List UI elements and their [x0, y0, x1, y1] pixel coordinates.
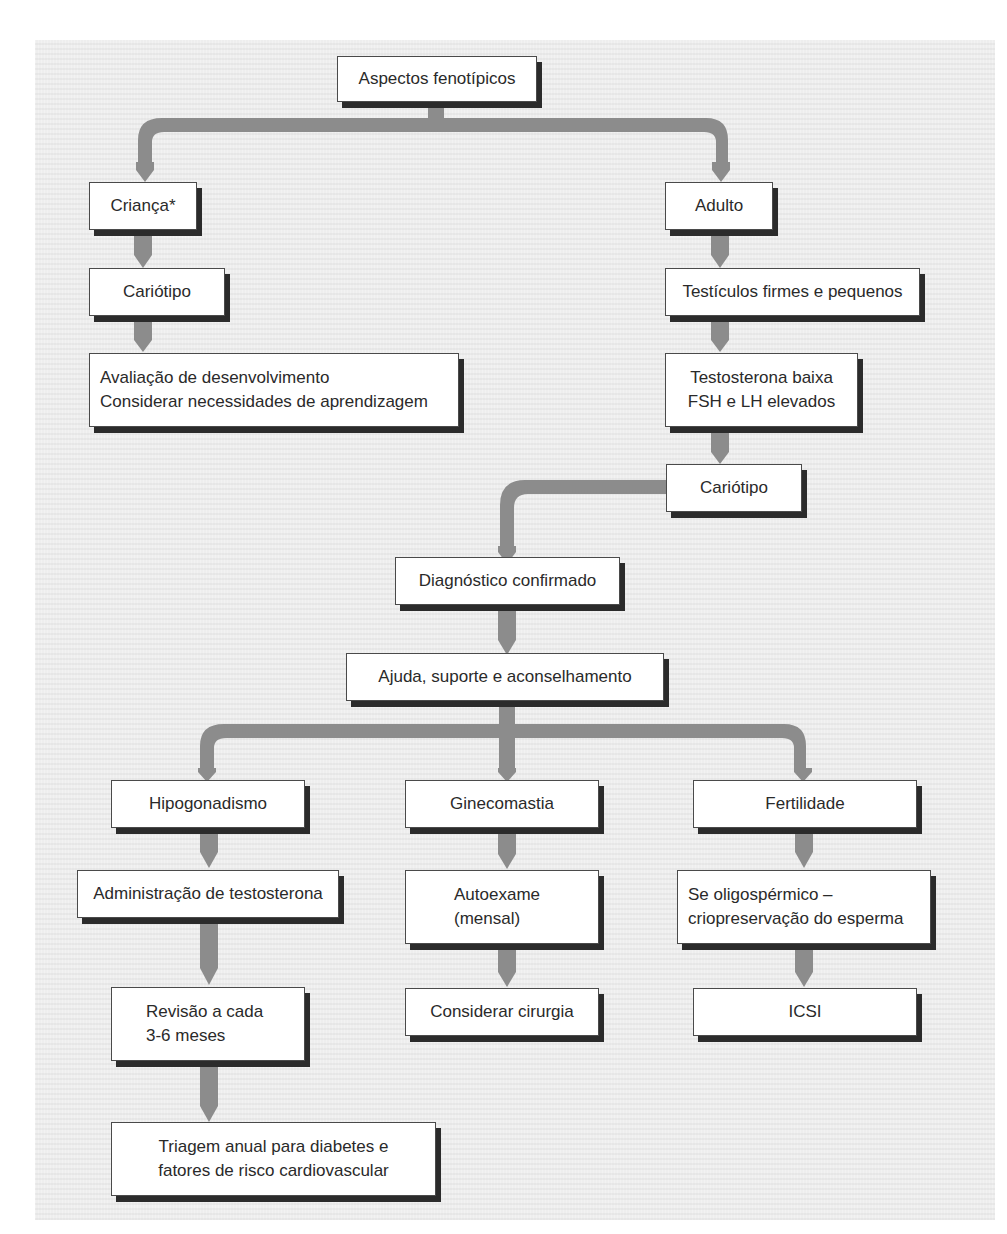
node-label-line-2: (mensal) — [454, 907, 520, 931]
node-label-line-2: FSH e LH elevados — [688, 390, 835, 414]
node-testosterone-administration: Administração de testosterona — [77, 870, 339, 918]
node-label-line-1: Triagem anual para diabetes e — [159, 1135, 389, 1159]
node-self-exam: Autoexame (mensal) — [405, 870, 599, 944]
node-label: Cariótipo — [123, 280, 191, 304]
arrow-karyotype-to-eval — [134, 322, 152, 352]
node-label: Ginecomastia — [450, 792, 554, 816]
node-label: Aspectos fenotípicos — [359, 67, 516, 91]
connector-karyotype-to-diagnosis — [500, 480, 670, 548]
node-label: Fertilidade — [765, 792, 844, 816]
node-review-3-6-months: Revisão a cada 3-6 meses — [111, 987, 305, 1061]
node-label-line-1: Autoexame — [454, 883, 540, 907]
node-label-line-1: Avaliação de desenvolvimento — [100, 366, 329, 390]
node-label-line-2: fatores de risco cardiovascular — [158, 1159, 389, 1183]
arrow-diagnosis-to-support — [498, 610, 516, 655]
arrow-testosterone-to-review — [200, 916, 218, 985]
arrow-oligospermic-to-icsi — [795, 944, 813, 987]
arrow-to-adult — [712, 162, 730, 182]
node-annual-screening: Triagem anual para diabetes e fatores de… — [111, 1122, 436, 1196]
node-label: ICSI — [788, 1000, 821, 1024]
node-phenotypic-aspects: Aspectos fenotípicos — [337, 56, 537, 102]
arrow-child-to-karyotype — [134, 230, 152, 268]
node-label: Considerar cirurgia — [430, 1000, 574, 1024]
node-icsi: ICSI — [693, 988, 917, 1036]
node-child-karyotype: Cariótipo — [89, 268, 225, 316]
node-label-line-1: Revisão a cada — [146, 1000, 263, 1024]
node-hypogonadism: Hipogonadismo — [111, 780, 305, 828]
node-diagnosis-confirmed: Diagnóstico confirmado — [395, 557, 620, 605]
arrow-gynecomastia-to-selfexam — [498, 828, 516, 869]
arrow-selfexam-to-surgery — [498, 944, 516, 987]
node-label: Administração de testosterona — [93, 882, 323, 906]
arrow-review-to-screening — [200, 1060, 218, 1122]
node-label: Testículos firmes e pequenos — [682, 280, 902, 304]
node-fertility: Fertilidade — [693, 780, 917, 828]
arrow-hormones-to-karyotype — [711, 430, 729, 464]
arrow-hypogonadism-to-testosterone — [200, 828, 218, 868]
arrow-adult-to-testes — [711, 230, 729, 268]
node-label-line-2: 3-6 meses — [146, 1024, 225, 1048]
node-gynecomastia: Ginecomastia — [405, 780, 599, 828]
node-label: Criança* — [110, 194, 175, 218]
node-help-support-counseling: Ajuda, suporte e aconselhamento — [346, 653, 664, 701]
node-small-firm-testes: Testículos firmes e pequenos — [665, 268, 920, 316]
node-label: Adulto — [695, 194, 743, 218]
node-label-line-2: Considerar necessidades de aprendizagem — [100, 390, 428, 414]
arrow-fertility-to-oligospermic — [795, 828, 813, 868]
node-label-line-1: Se oligospérmico – — [688, 883, 833, 907]
arrow-to-child — [136, 162, 154, 182]
node-label: Hipogonadismo — [149, 792, 267, 816]
node-adult-karyotype: Cariótipo — [666, 464, 802, 512]
arrow-testes-to-hormones — [711, 318, 729, 352]
node-child: Criança* — [89, 182, 197, 230]
node-hormone-levels: Testosterona baixa FSH e LH elevados — [665, 353, 858, 427]
node-development-evaluation: Avaliação de desenvolvimento Considerar … — [89, 353, 459, 427]
node-label: Ajuda, suporte e aconselhamento — [378, 665, 631, 689]
node-label: Diagnóstico confirmado — [419, 569, 597, 593]
node-label-line-1: Testosterona baixa — [690, 366, 833, 390]
node-oligospermic-cryopreservation: Se oligospérmico – criopreservação do es… — [677, 870, 931, 944]
connector-support-middle — [499, 720, 515, 770]
connector-support-stem — [499, 703, 515, 721]
node-label-line-2: criopreservação do esperma — [688, 907, 903, 931]
node-adult: Adulto — [665, 182, 773, 230]
connector-root-branch — [138, 118, 728, 164]
node-label: Cariótipo — [700, 476, 768, 500]
node-consider-surgery: Considerar cirurgia — [405, 988, 599, 1036]
